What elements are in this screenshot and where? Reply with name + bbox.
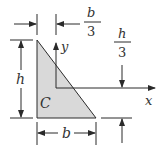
y-axis-label: y [60, 39, 69, 54]
offset-y-numerator: h [118, 26, 126, 41]
base-label: b [62, 125, 71, 141]
x-axis-label: x [145, 93, 153, 108]
offset-x-denominator: 3 [87, 24, 95, 39]
centroid-label: C [40, 95, 51, 111]
offset-y-denominator: 3 [118, 45, 126, 60]
offset-x-numerator: b [87, 5, 95, 20]
height-label: h [16, 71, 25, 87]
triangle-centroid-diagram: y x C h b b 3 h 3 [0, 0, 163, 152]
